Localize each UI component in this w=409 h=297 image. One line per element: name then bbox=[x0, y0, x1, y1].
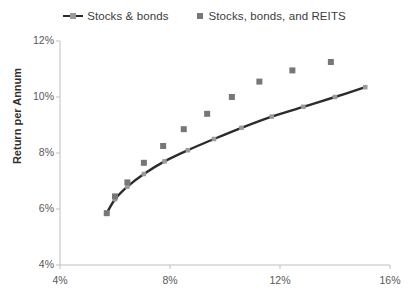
y-axis-tick-marks bbox=[56, 41, 60, 265]
data-point-stocks-bonds bbox=[142, 172, 147, 177]
data-point-stocks-bonds-reits bbox=[124, 179, 130, 185]
data-point-stocks-bonds-reits bbox=[160, 143, 166, 149]
data-point-stocks-bonds-reits bbox=[289, 67, 295, 73]
data-point-stocks-bonds bbox=[186, 148, 191, 153]
data-point-stocks-bonds-reits bbox=[229, 94, 235, 100]
data-point-stocks-bonds-reits bbox=[204, 111, 210, 117]
data-point-stocks-bonds-reits bbox=[112, 193, 118, 199]
series-markers-stocks-bonds bbox=[105, 85, 368, 216]
series-line-stocks-bonds bbox=[107, 87, 366, 213]
data-point-stocks-bonds bbox=[212, 137, 217, 142]
data-point-stocks-bonds-reits bbox=[328, 59, 334, 65]
x-axis-tick-marks bbox=[60, 265, 390, 269]
data-point-stocks-bonds bbox=[333, 95, 338, 100]
plot-area bbox=[0, 0, 409, 297]
data-point-stocks-bonds-reits bbox=[256, 79, 262, 85]
data-point-stocks-bonds-reits bbox=[141, 160, 147, 166]
data-point-stocks-bonds bbox=[270, 114, 275, 119]
data-point-stocks-bonds-reits bbox=[181, 126, 187, 132]
data-point-stocks-bonds bbox=[363, 85, 368, 90]
data-point-stocks-bonds bbox=[239, 126, 244, 131]
chart-container: Stocks & bonds Stocks, bonds, and REITS … bbox=[0, 0, 409, 297]
data-point-stocks-bonds bbox=[301, 105, 306, 110]
data-point-stocks-bonds-reits bbox=[104, 210, 110, 216]
data-point-stocks-bonds bbox=[162, 159, 167, 164]
